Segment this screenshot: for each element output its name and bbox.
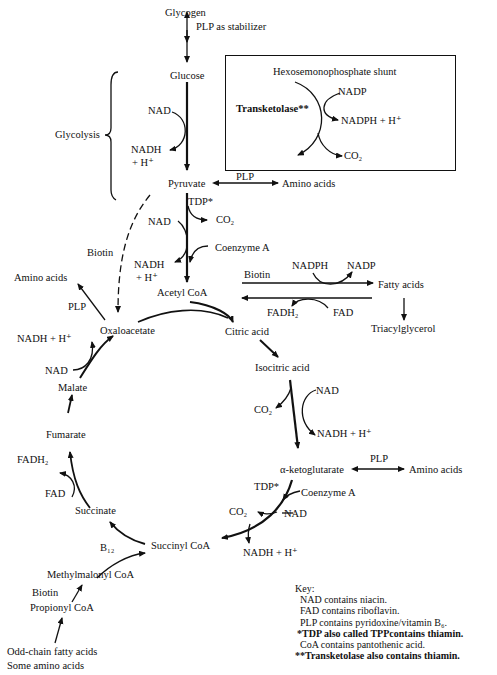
nadp-shunt-label: NADP	[338, 87, 367, 98]
coenzyme-a-pyruvate-label: Coenzyme A	[215, 243, 270, 254]
hplus-pyruvate-label: + H⁺	[136, 273, 158, 284]
plp-akg-label: PLP	[370, 454, 388, 465]
citric-acid-label: Citric acid	[225, 327, 269, 338]
nadh-isocitric-label: NADH + H⁺	[317, 429, 372, 440]
malate-label: Malate	[58, 383, 87, 394]
akg-label: α-ketoglutarate	[280, 465, 344, 476]
nadp-fatty-label: NADP	[347, 261, 376, 272]
fumarate-label: Fumarate	[46, 430, 86, 441]
key-line-plp: PLP contains pyridoxine/vitamin B₆.	[295, 617, 463, 628]
glycolysis-label: Glycolysis	[55, 130, 100, 141]
tdp-akg-label: TDP*	[254, 482, 279, 493]
acetyl-coa-label: Acetyl CoA	[157, 288, 207, 299]
fatty-acids-label: Fatty acids	[378, 280, 424, 291]
tdp-pyruvate-label: TDP*	[188, 197, 213, 208]
amino-acids-pyruvate-label: Amino acids	[282, 179, 335, 190]
hplus-glycolysis-label: + H⁺	[132, 158, 154, 169]
methylmalonyl-coa-label: Methylmalonyl CoA	[47, 570, 134, 581]
isocitric-acid-label: Isocitric acid	[255, 363, 310, 374]
co2-isocitric-label: CO₂	[254, 405, 272, 416]
nadh-malate-label: NADH + H⁺	[17, 334, 72, 345]
succinyl-coa-label: Succinyl CoA	[151, 541, 210, 552]
fadh2-fatty-label: FADH₂	[267, 308, 298, 319]
nad-isocitric-label: NAD	[316, 386, 339, 397]
key-legend: Key: NAD contains niacin. FAD contains r…	[295, 583, 463, 661]
nad-malate-label: NAD	[45, 366, 68, 377]
b12-label: B₁₂	[100, 543, 114, 554]
fad-cycle-label: FAD	[45, 489, 65, 500]
biotin-fatty-label: Biotin	[244, 270, 270, 281]
some-amino-acids-label: Some amino acids	[7, 661, 84, 672]
co2-pyruvate-label: CO₂	[216, 215, 234, 226]
biotin-propionyl-label: Biotin	[32, 588, 58, 599]
oxaloacetate-label: Oxaloacetate	[100, 326, 155, 337]
key-line-tdp: *TDP also called TPPcontains thiamin.	[295, 628, 463, 639]
propionyl-coa-label: Propionyl CoA	[30, 603, 94, 614]
plp-stabilizer-label: PLP as stabilizer	[196, 22, 266, 33]
triacylglycerol-label: Triacylglycerol	[371, 324, 435, 335]
nadh-glycolysis-label: NADH	[131, 145, 161, 156]
plp-oaa-label: PLP	[68, 302, 86, 313]
nadph-shunt-label: NADPH + H⁺	[341, 116, 401, 127]
coenzyme-a-akg-label: Coenzyme A	[301, 488, 356, 499]
fad-fatty-label: FAD	[333, 308, 353, 319]
key-line-fad: FAD contains riboflavin.	[295, 605, 463, 616]
nadh-pyruvate-label: NADH	[134, 260, 164, 271]
glycogen-label: Glycogen	[165, 8, 206, 19]
key-title: Key:	[295, 583, 463, 594]
fadh2-cycle-label: FADH₂	[17, 455, 48, 466]
transketolase-label: Transketolase**	[236, 104, 309, 115]
nad-pyruvate-label: NAD	[148, 217, 171, 228]
key-line-nad: NAD contains niacin.	[295, 594, 463, 605]
succinate-label: Succinate	[75, 506, 116, 517]
odd-chain-fatty-acids-label: Odd-chain fatty acids	[7, 647, 97, 658]
glucose-label: Glucose	[170, 71, 204, 82]
plp-pyruvate-label: PLP	[236, 172, 254, 183]
shunt-title: Hexosemonophosphate shunt	[273, 67, 396, 78]
nad-akg-label: NAD	[284, 509, 307, 520]
biotin-pyruvate-label: Biotin	[87, 248, 113, 259]
amino-acids-akg-label: Amino acids	[409, 465, 462, 476]
nadph-fatty-label: NADPH	[292, 261, 328, 272]
nadh-akg-label: NADH + H⁺	[243, 548, 298, 559]
pyruvate-label: Pyruvate	[168, 179, 205, 190]
co2-shunt-label: CO₂	[344, 151, 362, 162]
key-line-transketolase: **Transketolase also contains thiamin.	[295, 650, 463, 661]
amino-acids-oaa-label: Amino acids	[14, 273, 67, 284]
key-line-coa: CoA contains pantothenic acid.	[295, 639, 463, 650]
nad-glycolysis-label: NAD	[148, 106, 171, 117]
co2-akg-label: CO₂	[229, 507, 247, 518]
